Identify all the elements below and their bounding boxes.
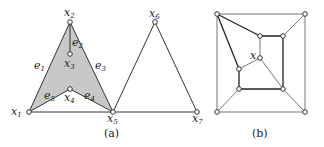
- node-b-inner-tr: [281, 34, 286, 39]
- label-x1: x1: [11, 105, 22, 119]
- node-x2: [68, 20, 73, 25]
- node-x1: [27, 110, 32, 115]
- label-e2: e2: [72, 36, 84, 50]
- caption-b: (b): [252, 127, 268, 140]
- edge-tl-inner-top: [217, 14, 260, 36]
- edge-tr-inner: [283, 14, 305, 36]
- edge-bl-inner: [217, 89, 239, 112]
- figure: x1 x2 x3 x4 x5 x6 x7 e1 e2 e3 e4 e5 (a): [0, 0, 324, 147]
- node-x3: [68, 52, 73, 57]
- node-b-inner-bl: [237, 87, 242, 92]
- caption-a: (a): [104, 127, 119, 140]
- node-b-bl: [215, 110, 220, 115]
- node-b-center-x: [258, 56, 263, 61]
- node-b-tr: [303, 12, 308, 17]
- node-b-br: [303, 110, 308, 115]
- panel-b: x (b): [215, 12, 308, 140]
- panel-a: x1 x2 x3 x4 x5 x6 x7 e1 e2 e3 e4 e5 (a): [11, 6, 203, 140]
- node-b-inner-left: [237, 67, 242, 72]
- label-x-center: x: [250, 49, 257, 62]
- label-x2: x2: [64, 6, 75, 20]
- edge-br-inner: [283, 89, 305, 112]
- node-b-inner-br: [281, 87, 286, 92]
- label-x5: x5: [107, 112, 118, 126]
- node-b-tl: [215, 12, 220, 17]
- inner-path: [239, 36, 283, 89]
- edge-tl-inner-left: [217, 14, 239, 69]
- label-x6: x6: [149, 7, 160, 21]
- label-x7: x7: [192, 112, 203, 126]
- node-b-inner-tl: [258, 34, 263, 39]
- edge-x5-x6: [113, 22, 155, 112]
- edge-x6-x7: [155, 22, 197, 112]
- edge-center-br: [260, 58, 283, 89]
- label-e1: e1: [34, 59, 45, 73]
- label-e3: e3: [95, 59, 107, 73]
- outer-square: [217, 14, 305, 112]
- label-x4: x4: [64, 91, 75, 105]
